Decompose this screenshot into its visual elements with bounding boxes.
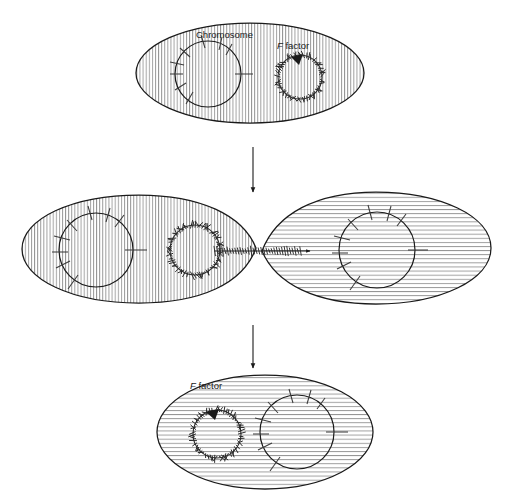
chromosome-label: Chromosome: [196, 29, 253, 40]
stage-2: [22, 192, 491, 304]
f-factor-label: F factor: [277, 40, 309, 51]
stage-1: Chromosome F factor: [136, 23, 364, 123]
conjugation-diagram: Chromosome F factor: [0, 0, 509, 496]
recipient-cell: [262, 192, 491, 304]
stage-3: F factor: [157, 375, 373, 489]
f-factor-label: F factor: [190, 380, 222, 391]
